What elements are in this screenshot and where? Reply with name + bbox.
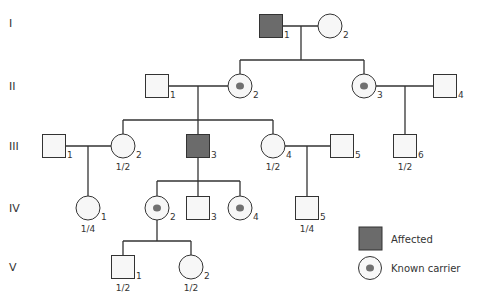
- individual-iii-4: 41/2: [261, 134, 292, 172]
- individual-number: 4: [458, 90, 464, 100]
- individual-number: 1: [284, 30, 290, 40]
- individual-number: 6: [418, 150, 424, 160]
- carrier-probability: 1/2: [116, 162, 130, 172]
- carrier-probability: 1/4: [81, 224, 96, 234]
- individual-ii-1: 1: [146, 75, 176, 101]
- male-symbol: [112, 256, 135, 279]
- individual-number: 3: [377, 90, 383, 100]
- individual-number: 3: [211, 150, 217, 160]
- female-symbol: [76, 196, 100, 220]
- individual-ii-3: 3: [352, 74, 383, 100]
- generation-labels: IIIIIIIVV: [9, 17, 20, 274]
- affected-male-symbol: [187, 135, 210, 158]
- carrier-dot-icon: [236, 205, 244, 212]
- carrier-dot-icon: [153, 205, 161, 212]
- individual-iv-3: 3: [187, 197, 217, 223]
- carrier-probability: 1/4: [300, 224, 315, 234]
- individual-number: 2: [136, 150, 142, 160]
- carrier-dot-icon: [360, 83, 368, 90]
- individual-number: 4: [286, 150, 292, 160]
- individual-iv-4: 4: [228, 196, 259, 222]
- individual-number: 5: [320, 212, 326, 222]
- individual-number: 1: [101, 212, 107, 222]
- individual-number: 1: [170, 90, 176, 100]
- individual-ii-2: 2: [228, 74, 259, 100]
- individual-iii-5: 5: [331, 135, 361, 161]
- generation-label: II: [9, 80, 16, 93]
- individual-number: 1: [67, 150, 73, 160]
- individual-v-1: 11/2: [112, 256, 142, 294]
- individual-iii-6: 61/2: [394, 135, 425, 173]
- individual-number: 4: [253, 212, 259, 222]
- individual-number: 3: [211, 212, 217, 222]
- individual-iv-1: 11/4: [76, 196, 107, 234]
- carrier-probability: 1/2: [266, 162, 280, 172]
- individual-number: 1: [136, 271, 142, 281]
- legend-carrier-dot-icon: [366, 265, 374, 272]
- individual-iv-2: 2: [145, 196, 176, 222]
- generation-label: III: [9, 140, 19, 153]
- male-symbol: [296, 197, 319, 220]
- individual-iii-1: 1: [43, 135, 73, 161]
- individual-v-2: 21/2: [179, 255, 210, 293]
- female-symbol: [261, 134, 285, 158]
- individual-number: 2: [204, 271, 210, 281]
- carrier-probability: 1/2: [398, 162, 412, 172]
- female-symbol: [318, 14, 342, 38]
- male-symbol: [187, 197, 210, 220]
- male-symbol: [146, 75, 169, 98]
- female-symbol: [111, 134, 135, 158]
- carrier-probability: 1/2: [116, 283, 130, 293]
- individual-iii-2: 21/2: [111, 134, 142, 172]
- legend: Affected Known carrier: [359, 227, 462, 280]
- generation-label: V: [9, 261, 17, 274]
- individual-i-2: 2: [318, 14, 349, 40]
- individual-number: 2: [343, 30, 349, 40]
- male-symbol: [43, 135, 66, 158]
- individual-ii-4: 4: [434, 75, 465, 101]
- legend-carrier-label: Known carrier: [391, 263, 461, 274]
- male-symbol: [331, 135, 354, 158]
- male-symbol: [394, 135, 417, 158]
- female-symbol: [179, 255, 203, 279]
- pedigree-chart: IIIIIIIVV 121234121/2341/2561/211/423451…: [0, 0, 478, 295]
- individuals: 121234121/2341/2561/211/423451/411/221/2: [43, 14, 465, 293]
- legend-affected-symbol: [359, 227, 382, 250]
- male-symbol: [434, 75, 457, 98]
- individual-number: 2: [170, 212, 176, 222]
- carrier-probability: 1/2: [184, 283, 198, 293]
- individual-iv-5: 51/4: [296, 197, 326, 235]
- affected-male-symbol: [260, 15, 283, 38]
- individual-iii-3: 3: [187, 135, 217, 161]
- generation-label: I: [9, 17, 12, 30]
- individual-number: 2: [253, 90, 259, 100]
- carrier-dot-icon: [236, 83, 244, 90]
- individual-i-1: 1: [260, 15, 290, 41]
- individual-number: 5: [355, 150, 361, 160]
- generation-label: IV: [9, 202, 20, 215]
- legend-affected-label: Affected: [391, 234, 433, 245]
